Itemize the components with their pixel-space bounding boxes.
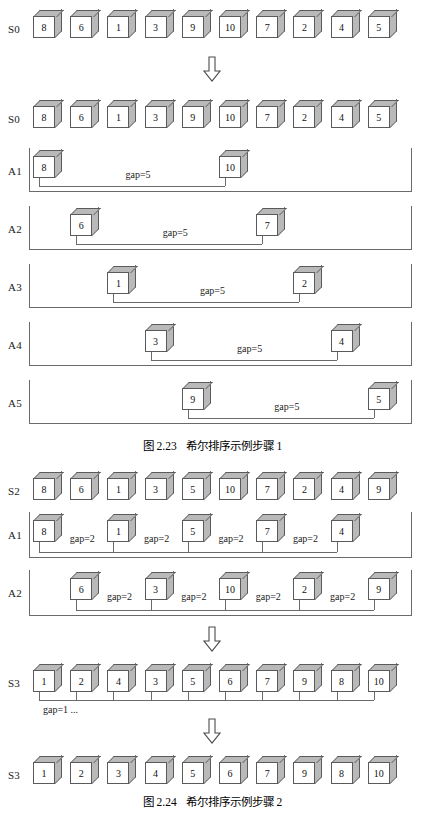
cube: 7 [256, 756, 285, 785]
row-label-s3: S3 [8, 770, 20, 781]
cube: 5 [182, 514, 211, 543]
cube-value: 7 [256, 478, 278, 500]
down-arrow-icon [203, 56, 221, 82]
gap-label: gap=2 [256, 592, 281, 602]
cube: 3 [145, 100, 174, 129]
row-label-s0: S0 [8, 24, 20, 35]
cube: 7 [256, 100, 285, 129]
cube-value: 1 [107, 106, 129, 128]
cube-value: 7 [256, 106, 278, 128]
cube-value: 10 [368, 762, 390, 784]
connector-horizontal [39, 700, 374, 701]
row-label-s3: S3 [8, 678, 20, 689]
cube: 2 [293, 266, 322, 295]
cube: 10 [219, 572, 248, 601]
cube: 3 [145, 572, 174, 601]
cube-value: 10 [219, 478, 241, 500]
cube: 10 [219, 472, 248, 501]
cube: 5 [368, 100, 397, 129]
connector-vertical [188, 542, 189, 552]
cube: 6 [219, 756, 248, 785]
cube-value: 5 [182, 478, 204, 500]
connector-vertical [262, 236, 263, 244]
cube: 7 [256, 10, 285, 39]
gap-label: gap=5 [237, 344, 262, 354]
gap-label: gap=5 [163, 228, 188, 238]
cube: 3 [145, 472, 174, 501]
cube: 4 [331, 100, 360, 129]
connector-horizontal [113, 302, 299, 303]
connector-vertical [76, 600, 77, 610]
cube: 6 [70, 472, 99, 501]
cube: 7 [256, 514, 285, 543]
cube: 9 [293, 664, 322, 693]
connector-vertical [374, 692, 375, 700]
cube: 9 [293, 756, 322, 785]
cube-value: 8 [33, 520, 55, 542]
cube: 8 [331, 664, 360, 693]
gap-label: gap=2 [330, 592, 355, 602]
cube-value: 10 [219, 106, 241, 128]
cube-value: 1 [33, 762, 55, 784]
cube: 4 [331, 514, 360, 543]
cube: 2 [293, 572, 322, 601]
cube-value: 3 [145, 578, 167, 600]
cube: 3 [145, 664, 174, 693]
caption-text: 希尔排序示例步骤 2 [186, 796, 283, 808]
connector-vertical [299, 294, 300, 302]
cube-value: 6 [219, 670, 241, 692]
cube-value: 2 [293, 106, 315, 128]
cube: 1 [33, 756, 62, 785]
cube-value: 4 [331, 520, 353, 542]
connector-horizontal [76, 244, 262, 245]
connector-vertical [39, 692, 40, 700]
cube: 6 [70, 208, 99, 237]
cube-value: 3 [145, 330, 167, 352]
cube-value: 9 [182, 106, 204, 128]
cube-value: 7 [256, 214, 278, 236]
gap-label: gap=2 [293, 534, 318, 544]
row-label-a2: A2 [8, 588, 22, 599]
cube-value: 6 [70, 214, 92, 236]
cube-value: 2 [293, 272, 315, 294]
cube: 8 [33, 100, 62, 129]
cube-value: 8 [33, 106, 55, 128]
cube-value: 10 [219, 156, 241, 178]
cube-value: 9 [293, 762, 315, 784]
cube: 4 [331, 324, 360, 353]
cube: 10 [219, 10, 248, 39]
cube: 4 [331, 472, 360, 501]
cube: 2 [293, 100, 322, 129]
cube: 1 [33, 664, 62, 693]
cube: 8 [331, 756, 360, 785]
cube: 10 [219, 100, 248, 129]
connector-vertical [76, 236, 77, 244]
cube: 4 [107, 664, 136, 693]
connector-vertical [262, 542, 263, 552]
cube-value: 1 [107, 520, 129, 542]
cube-value: 5 [182, 520, 204, 542]
cube: 8 [33, 10, 62, 39]
cube-value: 5 [368, 106, 390, 128]
cube: 9 [182, 10, 211, 39]
row-label-a2: A2 [8, 224, 22, 235]
cube: 6 [219, 664, 248, 693]
row-label-s2: S2 [8, 486, 20, 497]
gap-label: gap=5 [126, 170, 151, 180]
cube: 4 [331, 10, 360, 39]
connector-vertical [188, 692, 189, 700]
down-arrow-icon [203, 718, 221, 744]
cube-value: 2 [70, 762, 92, 784]
gap-label: gap=2 [219, 534, 244, 544]
gap-label: gap=2 [107, 592, 132, 602]
connector-horizontal [39, 552, 337, 553]
connector-vertical [299, 692, 300, 700]
row-label-s0: S0 [8, 114, 20, 125]
cube-value: 8 [33, 478, 55, 500]
connector-vertical [337, 542, 338, 552]
cube-value: 2 [293, 578, 315, 600]
cube-value: 4 [331, 106, 353, 128]
cube-value: 1 [33, 670, 55, 692]
connector-vertical [337, 692, 338, 700]
cube: 2 [70, 664, 99, 693]
